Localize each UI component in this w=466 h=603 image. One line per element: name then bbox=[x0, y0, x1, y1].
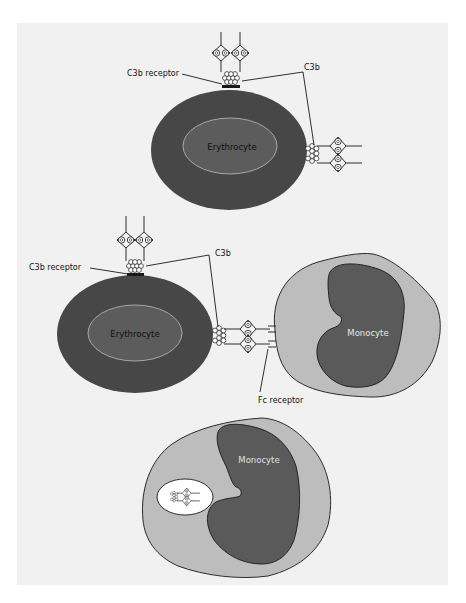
c3b-receptor-label-2: C3b receptor bbox=[29, 263, 82, 272]
c3b-receptor-label-1: C3b receptor bbox=[127, 69, 180, 78]
fc-receptor-label: Fc receptor bbox=[258, 396, 304, 405]
c3b-label-2: C3b bbox=[215, 249, 231, 258]
c3b-cluster-top-1 bbox=[223, 72, 240, 85]
immune-adherence-diagram: Erythrocyte C3b receptor C3b bbox=[0, 0, 466, 603]
monocyte-2-label: Monocyte bbox=[238, 455, 279, 465]
monocyte-1-label: Monocyte bbox=[347, 328, 388, 338]
erythrocyte-1-label: Erythrocyte bbox=[207, 142, 256, 152]
phagosome bbox=[157, 479, 213, 515]
c3b-cluster-top-2 bbox=[127, 260, 144, 273]
c3b-label-1: C3b bbox=[304, 63, 320, 72]
erythrocyte-2-label: Erythrocyte bbox=[110, 329, 159, 339]
